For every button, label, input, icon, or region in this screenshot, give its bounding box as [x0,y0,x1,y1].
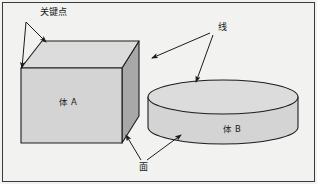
keypoint-leader-1 [26,22,46,42]
cylinder-top-face [148,80,298,114]
line-leader-2 [196,35,213,82]
shape-cylinder-volume-b [148,80,298,144]
keypoint-leader-2 [22,22,26,68]
label-volume-a: 体 A [59,97,77,107]
diagram-canvas: 关键点 线 面 体 A 体 B [0,0,317,184]
shape-cube-volume-a [21,41,139,143]
label-volume-b: 体 B [223,124,241,134]
line-leader-1 [152,33,210,58]
face-leader-1 [126,135,141,160]
face-leader-2 [147,135,181,160]
label-face: 面 [139,162,148,172]
label-keypoint: 关键点 [40,6,67,17]
cube-top-face [21,41,139,68]
line-leaders [152,33,213,82]
label-line: 线 [218,21,227,32]
